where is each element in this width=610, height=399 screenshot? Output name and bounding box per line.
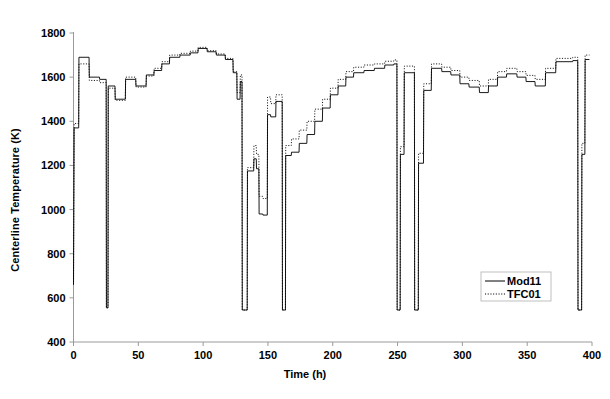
legend-label-mod11: Mod11 — [507, 275, 541, 287]
y-tick-label: 800 — [47, 248, 65, 260]
chart-container: Centerline Temperature (K) 4006008001000… — [0, 0, 610, 399]
x-tick-label: 350 — [518, 349, 536, 361]
series-line-mod11 — [74, 48, 590, 310]
y-tick-label: 600 — [47, 292, 65, 304]
x-axis-label: Time (h) — [0, 368, 610, 380]
x-tick-label: 250 — [388, 349, 406, 361]
x-tick-label: 400 — [583, 349, 601, 361]
y-tick-label: 400 — [47, 336, 65, 348]
x-tick-label: 200 — [324, 349, 342, 361]
plot-area: 4006008001000120014001600180005010015020… — [0, 0, 610, 399]
x-tick-label: 0 — [70, 349, 76, 361]
x-tick-label: 100 — [194, 349, 212, 361]
y-tick-label: 1400 — [41, 115, 65, 127]
y-tick-label: 1000 — [41, 204, 65, 216]
series-line-tfc01 — [74, 47, 590, 310]
legend-label-tfc01: TFC01 — [507, 288, 541, 300]
y-tick-label: 1600 — [41, 71, 65, 83]
y-tick-label: 1800 — [41, 27, 65, 39]
legend[interactable]: Mod11TFC01 — [481, 272, 551, 301]
x-tick-label: 300 — [453, 349, 471, 361]
y-tick-label: 1200 — [41, 159, 65, 171]
x-tick-label: 150 — [259, 349, 277, 361]
x-tick-label: 50 — [132, 349, 144, 361]
